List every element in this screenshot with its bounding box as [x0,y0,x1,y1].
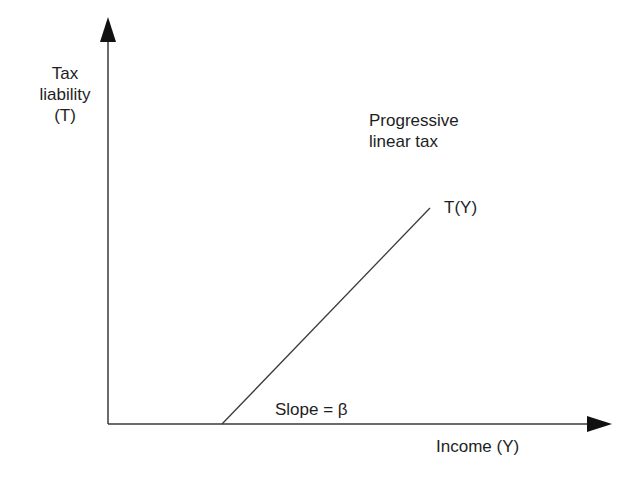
y-axis-label-line-1: Tax [30,63,100,84]
tax-schedule-line [222,208,430,424]
y-axis-label-line-2: liability [30,84,100,105]
diagram-title-line-2: linear tax [369,131,459,152]
slope-label: Slope = β [275,399,348,420]
diagram-title: Progressive linear tax [369,110,459,152]
y-axis-label-line-3: (T) [30,105,100,126]
y-axis-arrow-icon [100,17,116,42]
diagram-title-line-1: Progressive [369,110,459,131]
y-axis-label: Tax liability (T) [30,63,100,126]
x-axis-label: Income (Y) [436,436,519,457]
x-axis-arrow-icon [587,416,612,432]
curve-label: T(Y) [444,197,477,218]
